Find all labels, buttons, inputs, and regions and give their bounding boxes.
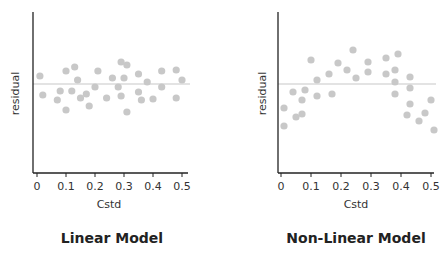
data-point <box>364 68 371 75</box>
data-point <box>74 76 81 83</box>
data-point <box>39 91 46 98</box>
data-point <box>36 72 43 79</box>
data-point <box>313 76 320 83</box>
data-point <box>349 46 356 53</box>
x-tick-label: 0.3 <box>115 180 133 193</box>
data-point <box>57 87 64 94</box>
data-point <box>328 90 335 97</box>
data-point <box>289 88 296 95</box>
data-point <box>427 96 434 103</box>
data-point <box>71 63 78 70</box>
data-point <box>178 76 185 83</box>
data-point <box>301 86 308 93</box>
non-linear-model-scatter-plot: 00.10.20.30.40.5 <box>224 0 448 257</box>
data-point <box>280 122 287 129</box>
data-point <box>415 117 422 124</box>
linear-model-panel: 00.10.20.30.40.5 residual Cstd Linear Mo… <box>0 0 224 257</box>
x-tick-label: 0.2 <box>86 180 104 193</box>
data-point <box>68 87 75 94</box>
data-point <box>115 83 122 90</box>
x-tick-label: 0 <box>278 180 285 193</box>
data-point <box>83 90 90 97</box>
data-point <box>382 70 389 77</box>
data-point <box>158 67 165 74</box>
data-point <box>430 126 437 133</box>
data-point <box>391 90 398 97</box>
data-point <box>135 70 142 77</box>
non-linear-model-panel: 00.10.20.30.40.5 residual Cstd Non-Linea… <box>224 0 448 257</box>
data-point <box>120 74 127 81</box>
data-point <box>334 59 341 66</box>
data-point <box>144 78 151 85</box>
data-point <box>313 92 320 99</box>
data-point <box>307 56 314 63</box>
data-point <box>325 70 332 77</box>
y-axis-label: residual <box>256 69 269 119</box>
data-point <box>394 50 401 57</box>
data-point <box>391 78 398 85</box>
data-point <box>62 67 69 74</box>
data-point <box>62 106 69 113</box>
data-point <box>91 83 98 90</box>
x-tick-label: 0.4 <box>392 180 410 193</box>
data-point <box>421 109 428 116</box>
data-point <box>94 67 101 74</box>
x-tick-label: 0.1 <box>302 180 320 193</box>
data-point <box>123 61 130 68</box>
data-point <box>403 111 410 118</box>
data-point <box>298 96 305 103</box>
data-point <box>109 74 116 81</box>
x-axis-label: Cstd <box>331 198 381 211</box>
x-tick-label: 0.5 <box>422 180 440 193</box>
data-point <box>406 73 413 80</box>
data-point <box>352 74 359 81</box>
linear-model-scatter-plot: 00.10.20.30.40.5 <box>0 0 224 257</box>
x-tick-label: 0.1 <box>57 180 75 193</box>
data-point <box>173 94 180 101</box>
data-point <box>118 92 125 99</box>
data-point <box>382 54 389 61</box>
chart-title: Linear Model <box>0 230 224 246</box>
data-point <box>103 94 110 101</box>
x-tick-label: 0.2 <box>332 180 350 193</box>
x-tick-label: 0.5 <box>173 180 191 193</box>
x-tick-label: 0.4 <box>144 180 162 193</box>
data-point <box>158 83 165 90</box>
y-axis-label: residual <box>9 69 22 119</box>
data-point <box>364 58 371 65</box>
data-point <box>298 110 305 117</box>
data-point <box>406 100 413 107</box>
x-tick-label: 0 <box>34 180 41 193</box>
x-axis-label: Cstd <box>84 198 134 211</box>
data-point <box>138 96 145 103</box>
data-point <box>173 66 180 73</box>
data-point <box>343 66 350 73</box>
data-point <box>135 88 142 95</box>
data-point <box>149 95 156 102</box>
data-point <box>280 104 287 111</box>
data-point <box>123 108 130 115</box>
chart-title: Non-Linear Model <box>244 230 448 246</box>
data-point <box>391 66 398 73</box>
x-tick-label: 0.3 <box>362 180 380 193</box>
data-point <box>54 96 61 103</box>
data-point <box>86 102 93 109</box>
data-point <box>406 84 413 91</box>
